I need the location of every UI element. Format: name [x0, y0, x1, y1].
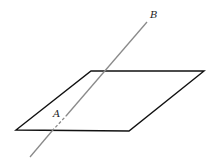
line-ab-lower — [30, 131, 52, 157]
label-a: A — [52, 108, 60, 119]
label-b: B — [149, 9, 157, 20]
line-plane-diagram: A B — [0, 0, 213, 167]
plane — [16, 71, 204, 131]
line-ab-upper — [66, 22, 147, 116]
